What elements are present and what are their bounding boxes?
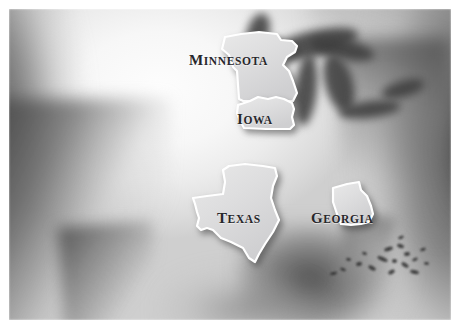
label-minnesota-initial: M [189,52,204,68]
gulf-shallows [159,264,329,320]
island-dot [392,259,397,263]
map-canvas: MINNESOTA IOWA TEXAS GEORGIA [9,9,451,320]
island-dot [346,258,351,262]
label-texas-initial: T [217,210,228,226]
island-dot [424,262,429,266]
state-label-iowa: IOWA [237,110,273,128]
state-label-texas: TEXAS [217,209,261,227]
label-minnesota-rest: INNESOTA [204,55,268,67]
map-screenshot: MINNESOTA IOWA TEXAS GEORGIA [0,0,460,329]
state-label-minnesota: MINNESOTA [189,51,268,69]
label-iowa-rest: OWA [243,114,272,126]
label-texas-rest: EXAS [228,213,261,225]
label-georgia-rest: EORGIA [323,213,373,225]
label-georgia-initial: G [311,210,323,226]
baja-california [57,221,159,320]
state-label-georgia: GEORGIA [311,209,374,227]
